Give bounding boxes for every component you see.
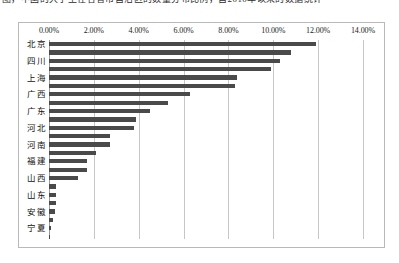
bar (49, 184, 56, 188)
bar (49, 209, 55, 213)
y-axis-category-label: 广东 (27, 106, 47, 116)
bar-row (19, 166, 384, 174)
y-axis-category-label: 北京 (27, 39, 47, 49)
bar-row (19, 216, 384, 224)
chart-frame: 0.00%2.00%4.00%6.00%8.00%10.00%12.00%14.… (18, 22, 385, 248)
x-axis-tick-label: 10.00% (261, 26, 285, 36)
y-axis-category-label: 河南 (27, 140, 47, 150)
bar (49, 134, 110, 138)
bar-row (19, 182, 384, 190)
bar (49, 226, 51, 230)
y-axis-category-label: 河北 (27, 123, 47, 133)
bar-row (19, 208, 384, 216)
bar (49, 151, 96, 155)
bar (49, 75, 237, 79)
bar-row (19, 74, 384, 82)
figure-caption-text: 图，中国的大学生在各省市自治区的数量分布比例，自2010年以来的数据统计 (2, 0, 322, 4)
bar (49, 126, 134, 130)
x-axis-tick-labels: 0.00%2.00%4.00%6.00%8.00%10.00%12.00%14.… (19, 26, 384, 38)
chart-plot-body (19, 40, 384, 239)
bar (49, 176, 78, 180)
y-axis-category-label: 福建 (27, 156, 47, 166)
y-axis-category-label: 宁夏 (27, 223, 47, 233)
bar-row (19, 99, 384, 107)
figure-caption: 图，中国的大学生在各省市自治区的数量分布比例，自2010年以来的数据统计 (0, 0, 399, 9)
y-axis-category-labels: 北京四川上海广西广东河北河南福建山西山东安徽宁夏 (19, 40, 49, 239)
y-axis-category-label: 四川 (27, 56, 47, 66)
y-axis-category-label: 上海 (27, 73, 47, 83)
bar (49, 67, 271, 71)
y-axis-category-label: 广西 (27, 89, 47, 99)
bar (49, 159, 87, 163)
bar-row (19, 90, 384, 98)
bar-series (19, 40, 384, 239)
chart-plot-area: 0.00%2.00%4.00%6.00%8.00%10.00%12.00%14.… (19, 23, 384, 247)
bar-row (19, 57, 384, 65)
x-axis-tick-label: 6.00% (173, 26, 193, 36)
bar-row (19, 149, 384, 157)
bar (49, 142, 110, 146)
bar (49, 218, 53, 222)
bar (49, 168, 87, 172)
bar (49, 84, 235, 88)
bar-row (19, 157, 384, 165)
x-axis-tick-label: 8.00% (218, 26, 238, 36)
bar-row (19, 40, 384, 48)
x-axis-tick-label: 4.00% (129, 26, 149, 36)
bar (49, 92, 190, 96)
bar (49, 42, 316, 46)
y-axis-category-label: 山西 (27, 173, 47, 183)
bar-row (19, 82, 384, 90)
bar (49, 59, 280, 63)
bar-row (19, 65, 384, 73)
y-axis-category-label: 安徽 (27, 207, 47, 217)
bar-row (19, 191, 384, 199)
x-axis-tick-label: 2.00% (84, 26, 104, 36)
bar-row (19, 107, 384, 115)
bar-row (19, 199, 384, 207)
bar-row (19, 174, 384, 182)
bar (49, 50, 291, 54)
bar-row (19, 224, 384, 232)
bar-row (19, 124, 384, 132)
bar (49, 109, 150, 113)
bar (49, 201, 56, 205)
bar-row (19, 115, 384, 123)
x-axis-tick-label: 0.00% (39, 26, 59, 36)
bar (49, 101, 168, 105)
x-axis-tick-label: 12.00% (306, 26, 330, 36)
bar-row (19, 132, 384, 140)
bar-row (19, 48, 384, 56)
y-axis-category-label: 山东 (27, 190, 47, 200)
bar-row (19, 233, 384, 241)
x-axis-tick-label: 14.00% (351, 26, 375, 36)
bar-row (19, 141, 384, 149)
bar (49, 193, 56, 197)
bar (49, 235, 50, 239)
bar (49, 117, 136, 121)
